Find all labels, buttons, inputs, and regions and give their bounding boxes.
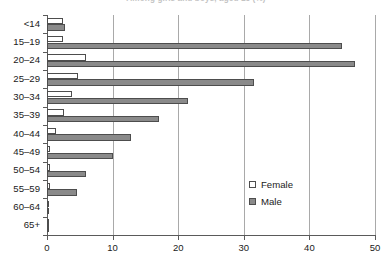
y-axis-tick [43,235,48,236]
bar-female [47,73,78,79]
x-axis-tick [244,236,245,240]
bar-male [47,134,131,140]
y-axis-category-label: 25–29 [0,73,40,84]
y-axis-category-label: 15–19 [0,36,40,47]
bar-female [47,219,49,225]
bar-female [47,18,63,24]
bar-female [47,91,72,97]
y-axis-category-label: 60–64 [0,201,40,212]
filled-square-icon [249,198,256,205]
legend-label-male: Male [261,196,282,207]
hollow-square-icon [249,181,256,188]
y-axis-category-label: 45–49 [0,146,40,157]
bar-female [47,36,63,42]
bar-male [47,43,342,49]
bar-female [47,128,56,134]
x-axis-line [47,235,376,236]
legend-label-female: Female [261,179,293,190]
y-axis-category-label: <14 [0,18,40,29]
bar-male [47,226,49,232]
bar-male [47,153,113,159]
x-axis-tick-label: 20 [158,242,198,253]
bar-male [47,171,86,177]
y-axis-category-label: 35–39 [0,109,40,120]
bar-female [47,201,49,207]
bar-female [47,54,86,60]
bar-male [47,116,159,122]
x-axis-tick [47,236,48,240]
bar-male [47,61,355,67]
bar-male [47,79,254,85]
x-axis-tick [375,236,376,240]
y-axis-category-label: 50–54 [0,164,40,175]
bar-male [47,189,77,195]
bar-male [47,98,188,104]
x-axis-tick-label: 10 [93,242,133,253]
y-axis-category-label: 40–44 [0,128,40,139]
x-axis-tick [178,236,179,240]
legend-item-female: Female [249,176,321,193]
chart-legend: Female Male [249,176,321,210]
y-axis-category-label: 30–34 [0,91,40,102]
y-axis-category-label: 20–24 [0,54,40,65]
bar-female [47,183,50,189]
x-axis-tick [309,236,310,240]
bar-female [47,164,50,170]
x-axis-tick-label: 40 [289,242,329,253]
bar-female [47,146,50,152]
x-axis-tick-label: 30 [224,242,264,253]
x-axis-tick-label: 0 [27,242,67,253]
plot-area [47,15,375,235]
bar-male [47,208,49,214]
chart-title: Among girls and boys, aged 15 (%) [0,0,392,6]
y-axis-category-label: 55–59 [0,183,40,194]
bar-chart: Among girls and boys, aged 15 (%) 010203… [0,0,392,263]
legend-item-male: Male [249,193,321,210]
gridline [375,15,376,235]
bar-male [47,24,65,30]
x-axis-tick [113,236,114,240]
y-axis-category-label: 65+ [0,219,40,230]
bar-female [47,109,64,115]
x-axis-tick-label: 50 [355,242,392,253]
